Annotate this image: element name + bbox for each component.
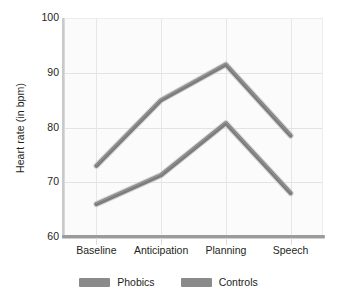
legend-item-controls[interactable]: Controls [181,276,258,288]
chart-legend: PhobicsControls [0,272,337,292]
x-axis-line [62,235,325,238]
plot-area [64,18,323,237]
y-axis-tick-labels: 60708090100 [31,0,59,297]
legend-label: Controls [219,276,258,288]
y-axis-title: Heart rate (in bpm) [12,8,28,248]
x-axis-tick-label: Baseline [76,243,116,257]
legend-swatch-icon [181,278,212,287]
legend-swatch-icon [79,278,110,287]
x-axis-tick-labels: BaselineAnticipationPlanningSpeech [64,243,323,259]
y-axis-tick-label: 70 [31,176,59,187]
y-axis-tick-label: 60 [31,231,59,242]
series-lines [64,18,323,237]
x-axis-tick-label: Planning [205,243,246,257]
legend-label: Phobics [117,276,154,288]
y-axis-tick-label: 100 [31,12,59,23]
legend-item-phobics[interactable]: Phobics [79,276,154,288]
y-axis-tick-label: 90 [31,67,59,78]
x-axis-tick-label: Speech [273,243,309,257]
chart-figure: Heart rate (in bpm) 60708090100 Baseline… [0,0,337,297]
y-axis-tick-label: 80 [31,122,59,133]
x-axis-tick-label: Anticipation [134,243,188,257]
